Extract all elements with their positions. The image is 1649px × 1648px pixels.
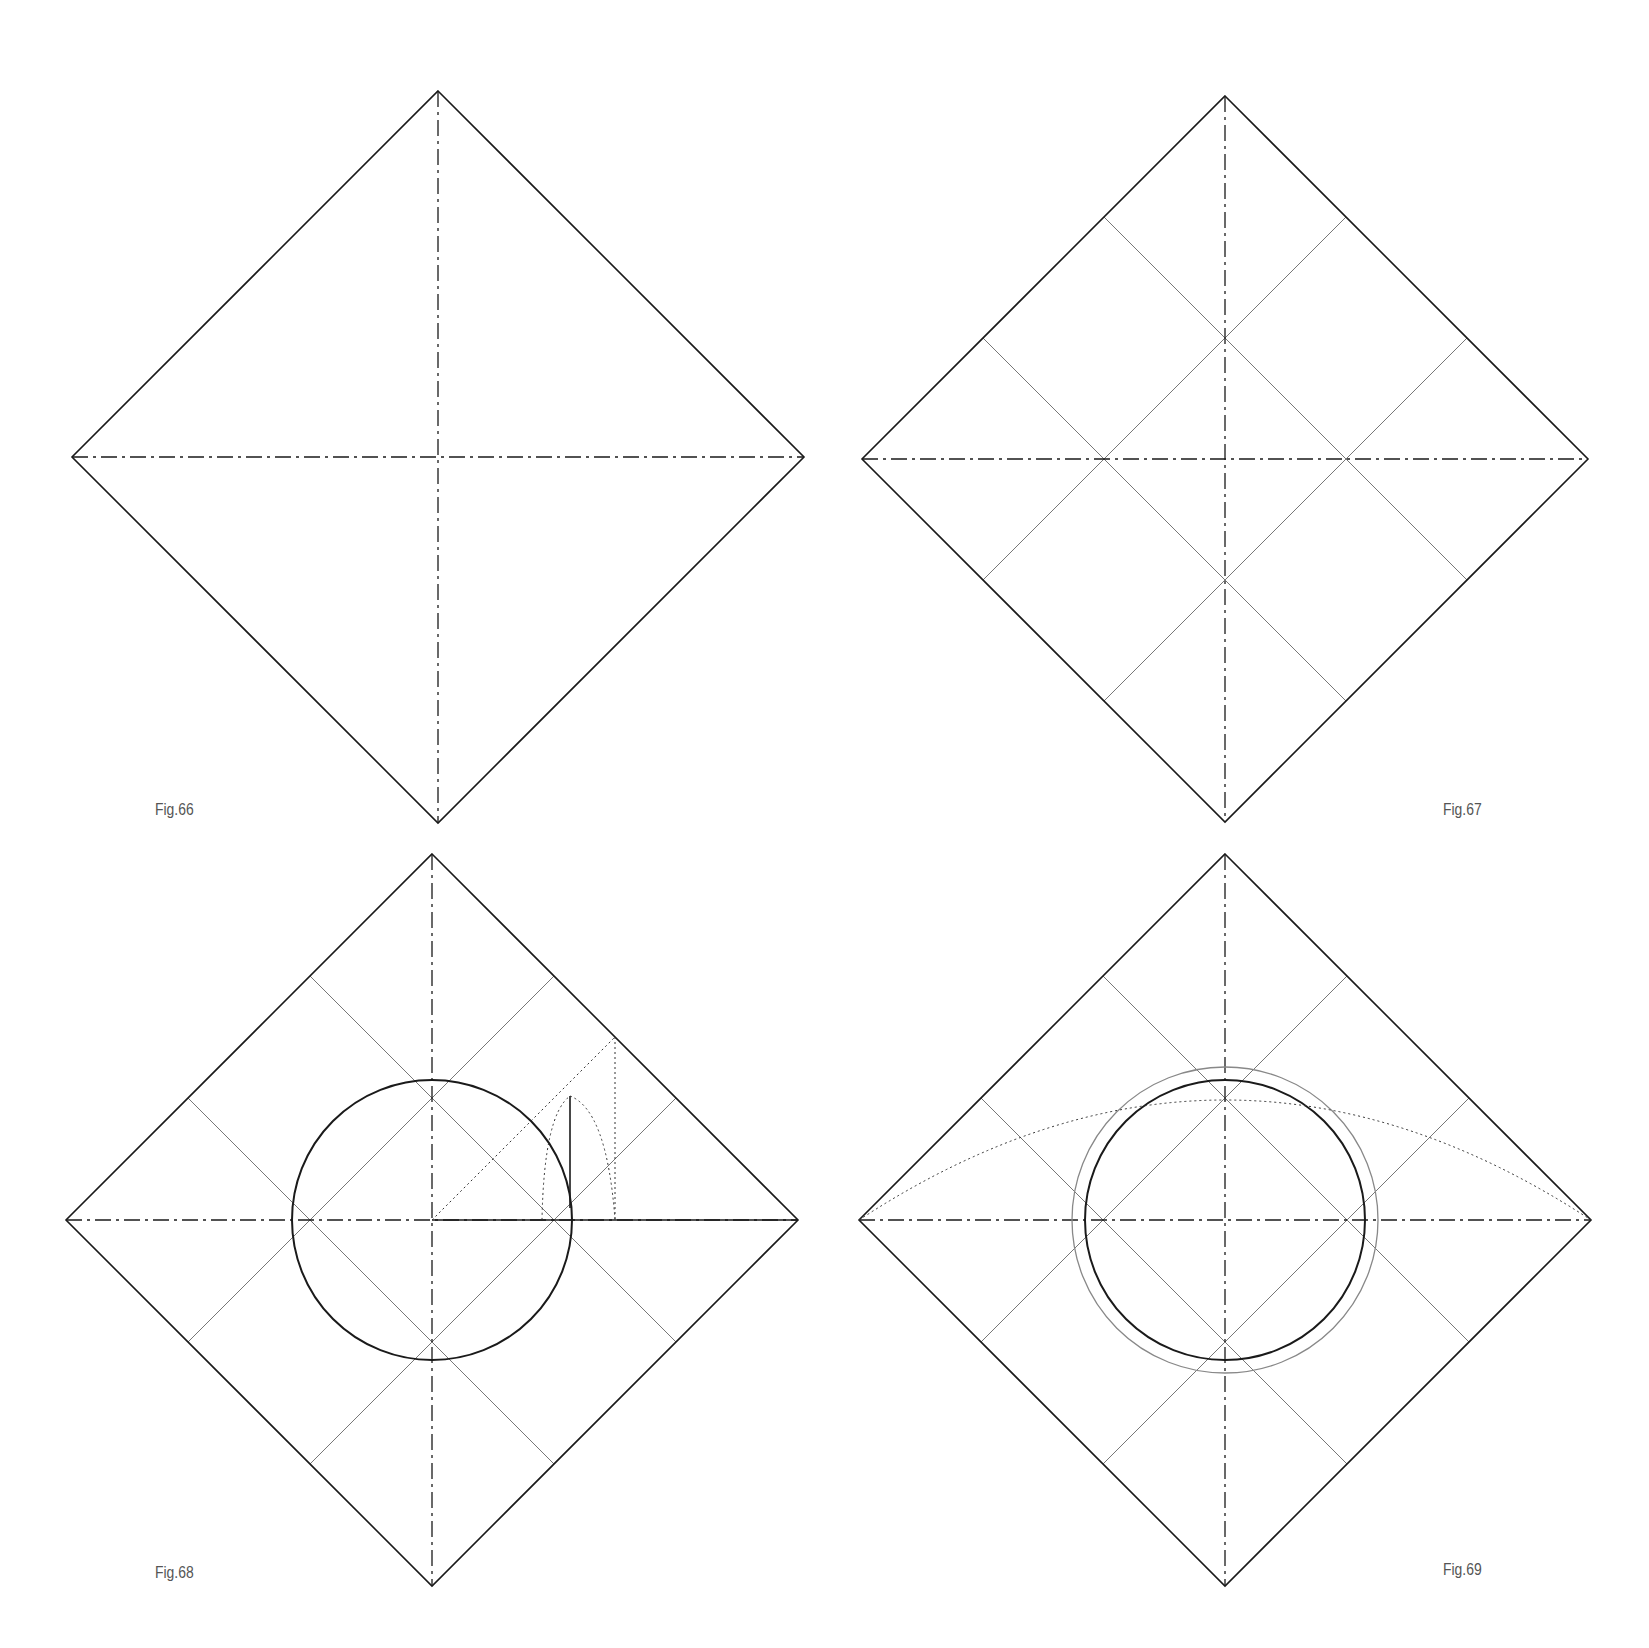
grid-line xyxy=(188,1098,554,1464)
grid-line xyxy=(1104,338,1467,701)
grid-line xyxy=(1104,217,1467,580)
grid-line xyxy=(1103,1098,1469,1464)
grid-line xyxy=(983,338,1346,701)
grid-line xyxy=(981,976,1347,1342)
grid-line xyxy=(983,217,1346,580)
construction-arc xyxy=(542,1096,570,1220)
construction-arc xyxy=(570,1096,615,1220)
fig67-diagram xyxy=(862,96,1588,822)
fig66-diagram xyxy=(72,91,804,823)
fig69-diagram xyxy=(859,854,1591,1586)
construction-diagonal xyxy=(432,1037,615,1220)
figure-label-67: Fig.67 xyxy=(1443,800,1482,820)
geometric-construction-canvas xyxy=(0,0,1649,1648)
grid-line xyxy=(310,1098,676,1464)
grid-line xyxy=(981,1098,1347,1464)
figure-label-66: Fig.66 xyxy=(155,800,194,820)
grid-line xyxy=(1103,976,1469,1342)
fig68-diagram xyxy=(66,854,798,1586)
figure-label-69: Fig.69 xyxy=(1443,1560,1482,1580)
grid-line xyxy=(188,976,554,1342)
figure-label-68: Fig.68 xyxy=(155,1563,194,1583)
